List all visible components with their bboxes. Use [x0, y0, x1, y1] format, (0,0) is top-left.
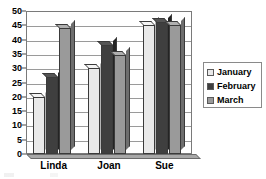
x-axis-label-linda: Linda	[40, 160, 67, 172]
legend-item-march[interactable]: March	[207, 94, 258, 107]
bar-front-face	[156, 22, 168, 154]
legend-label-february: February	[217, 82, 256, 91]
legend-item-january[interactable]: January	[207, 66, 258, 79]
y-tick-label: 25	[12, 78, 22, 87]
chart-legend: January February March	[203, 62, 262, 108]
scan-artifact	[4, 173, 224, 177]
bar-sue-february[interactable]	[156, 22, 168, 154]
bar-side-face	[71, 20, 75, 150]
bar-joan-march[interactable]	[114, 55, 126, 154]
y-tick-label: 15	[12, 107, 22, 116]
bars-layer	[26, 11, 192, 154]
bar-side-face	[181, 17, 185, 150]
legend-swatch-january	[207, 69, 214, 76]
bar-front-face	[88, 68, 100, 154]
legend-swatch-march	[207, 97, 214, 104]
x-axis-label-sue: Sue	[155, 160, 173, 172]
bar-group-sue	[137, 11, 192, 154]
bar-sue-march[interactable]	[169, 25, 181, 154]
legend-swatch-february	[207, 83, 214, 90]
bar-front-face	[114, 55, 126, 154]
bar-linda-march[interactable]	[59, 28, 71, 154]
legend-label-march: March	[217, 96, 244, 105]
x-axis-label-joan: Joan	[97, 160, 120, 172]
y-tick-label: 50	[12, 7, 22, 16]
bar-front-face	[59, 28, 71, 154]
bar-linda-february[interactable]	[46, 77, 58, 154]
bar-joan-january[interactable]	[88, 68, 100, 154]
bar-linda-january[interactable]	[33, 97, 45, 154]
bar-front-face	[143, 25, 155, 154]
y-axis: 05101520253035404550	[0, 0, 26, 179]
y-tick-label: 20	[12, 92, 22, 101]
bar-joan-february[interactable]	[101, 45, 113, 154]
y-tick-label: 30	[12, 64, 22, 73]
bar-front-face	[169, 25, 181, 154]
bar-group-linda	[26, 11, 81, 154]
chart-floor	[26, 154, 201, 159]
bar-front-face	[33, 97, 45, 154]
bar-front-face	[101, 45, 113, 154]
y-tick-label: 40	[12, 35, 22, 44]
legend-label-january: January	[217, 68, 252, 77]
legend-item-february[interactable]: February	[207, 80, 258, 93]
bar-chart: 05101520253035404550 LindaJoanSue Januar…	[0, 0, 266, 179]
bar-group-joan	[81, 11, 136, 154]
y-tick-label: 10	[12, 121, 22, 130]
bar-side-face	[126, 47, 130, 150]
bar-sue-january[interactable]	[143, 25, 155, 154]
y-tick-label: 45	[12, 21, 22, 30]
y-tick-label: 35	[12, 49, 22, 58]
bar-front-face	[46, 77, 58, 154]
